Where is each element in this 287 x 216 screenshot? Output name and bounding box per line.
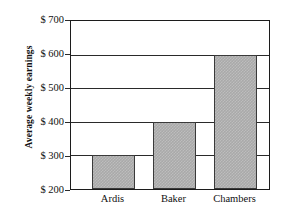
bar-ardis — [92, 155, 135, 189]
y-tick-label-400: $ 400 — [20, 117, 64, 128]
bar-chambers — [214, 55, 257, 189]
y-axis-tick-labels: $ 700 $ 600 $ 500 $ 400 $ 300 $ 200 — [16, 0, 64, 216]
y-tick-label-300: $ 300 — [20, 151, 64, 162]
y-tick-label-500: $ 500 — [20, 83, 64, 94]
y-tick-label-700: $ 700 — [20, 15, 64, 26]
bar-baker — [153, 122, 196, 189]
y-tick-label-200: $ 200 — [20, 185, 64, 196]
y-tick-label-600: $ 600 — [20, 49, 64, 60]
bar-chart: Average weekly earnings $ 700 $ 600 $ 50… — [0, 0, 287, 216]
x-tick-label-chambers: Chambers — [203, 193, 266, 205]
x-tick-label-ardis: Ardis — [81, 193, 144, 205]
x-tick-label-baker: Baker — [142, 193, 205, 205]
plot-area — [70, 20, 270, 190]
tick-mark-200 — [65, 190, 70, 191]
x-axis-tick-labels: Ardis Baker Chambers — [70, 193, 270, 213]
